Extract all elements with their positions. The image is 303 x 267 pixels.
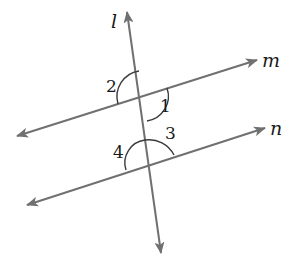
angle-4-arc (125, 140, 145, 170)
label-angle-4: 4 (113, 142, 124, 162)
label-line-l: l (111, 10, 117, 32)
parallel-lines-transversal-diagram: l m n 2 1 3 4 (0, 0, 303, 267)
label-line-m: m (262, 49, 280, 71)
label-angle-2: 2 (106, 76, 117, 96)
label-line-n: n (270, 117, 282, 139)
label-angle-3: 3 (165, 123, 176, 143)
label-angle-1: 1 (160, 96, 171, 116)
line-l (127, 12, 161, 253)
line-l-segment (127, 12, 161, 253)
